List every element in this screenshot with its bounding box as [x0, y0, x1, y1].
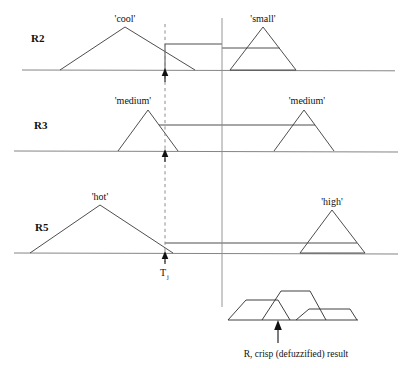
set-label-small: 'small' — [250, 13, 275, 24]
rule-label-r5: R5 — [35, 221, 49, 233]
result-shape-clipped-high — [296, 309, 357, 320]
aggregated-result-group — [228, 291, 358, 320]
membership-triangle-small — [230, 27, 296, 70]
baseline-r2 — [22, 70, 395, 71]
rule-row-r3: R3 'medium' 'medium' — [14, 95, 398, 152]
result-caption: R, crisp (defuzzified) result — [244, 349, 349, 360]
fuzzy-inference-diagram: R2 'cool' 'small' R3 'medium' 'medium' R… — [0, 0, 411, 368]
membership-triangle-medium-left — [118, 110, 178, 151]
svg-text:j: j — [166, 273, 169, 280]
input-value-label: T j — [160, 267, 169, 280]
crisp-result-arrow — [274, 320, 282, 343]
membership-triangle-cool — [60, 27, 195, 70]
set-label-medium-left: 'medium' — [115, 95, 152, 106]
set-label-medium-right: 'medium' — [289, 95, 326, 106]
baseline-r3 — [14, 151, 398, 152]
set-label-high: 'high' — [321, 196, 343, 207]
rule-label-r3: R3 — [34, 119, 48, 131]
result-shape-clipped-medium — [262, 291, 326, 320]
svg-text:T: T — [160, 267, 166, 278]
rule-row-r2: R2 'cool' 'small' — [22, 13, 395, 71]
result-shape-clipped-small — [228, 300, 290, 320]
set-label-hot: 'hot' — [92, 191, 109, 202]
set-label-cool: 'cool' — [115, 13, 136, 24]
rule-row-r5: R5 'hot' 'high' — [14, 191, 398, 254]
rule-label-r2: R2 — [31, 32, 45, 44]
membership-triangle-hot — [30, 205, 173, 253]
membership-triangle-medium-right — [274, 110, 334, 151]
membership-triangle-high — [300, 210, 365, 253]
